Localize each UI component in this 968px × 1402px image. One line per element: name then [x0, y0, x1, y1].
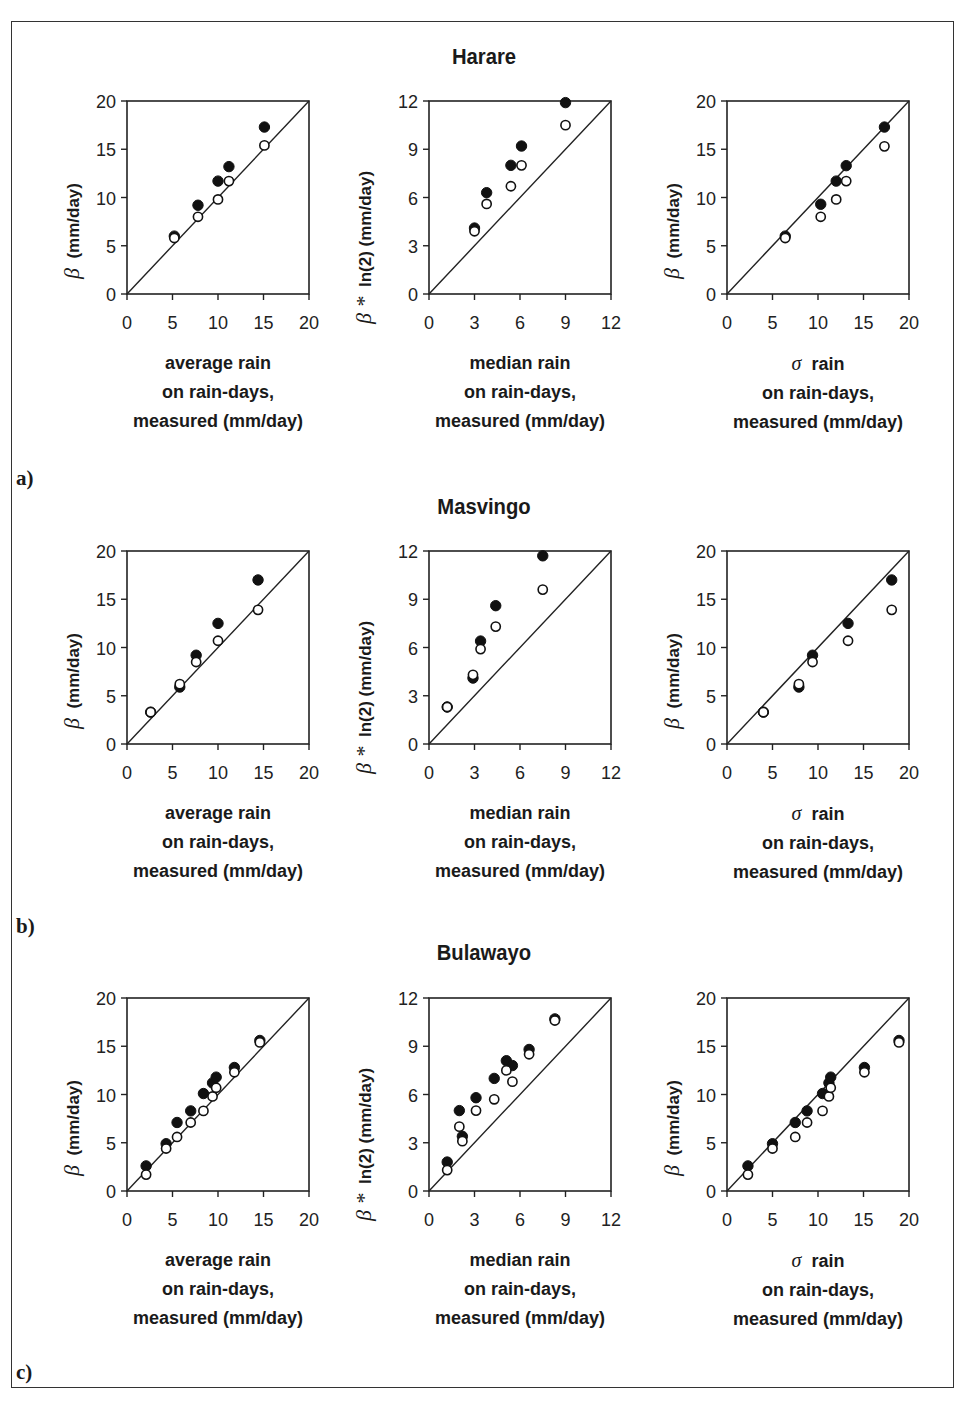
filled-data-point — [454, 1105, 464, 1115]
y-tick-label: 6 — [408, 639, 418, 659]
open-data-point — [224, 176, 233, 185]
open-data-point — [260, 141, 269, 150]
x-tick-label: 0 — [122, 313, 132, 333]
y-tick-label: 0 — [408, 735, 418, 755]
filled-data-point — [186, 1106, 196, 1116]
filled-data-point — [211, 1072, 221, 1082]
x-tick-label: 10 — [208, 313, 228, 333]
site-title-masvingo: Masvingo — [39, 494, 930, 520]
y-tick-label: 3 — [408, 687, 418, 707]
one-to-one-line — [429, 998, 611, 1191]
open-data-point — [561, 121, 570, 130]
x-tick-label: 15 — [853, 1210, 873, 1230]
open-data-point — [193, 212, 202, 221]
y-tick-label: 0 — [706, 285, 716, 305]
y-tick-label: 5 — [706, 687, 716, 707]
filled-data-point — [879, 122, 889, 132]
open-data-point — [743, 1170, 752, 1179]
x-axis-label: median rainon rain-days,measured (mm/day… — [390, 349, 650, 436]
y-tick-label: 0 — [106, 1182, 116, 1202]
x-tick-label: 0 — [722, 313, 732, 333]
open-data-point — [192, 657, 201, 666]
site-title-bulawayo: Bulawayo — [39, 940, 930, 966]
open-data-point — [802, 1118, 811, 1127]
x-tick-label: 0 — [424, 1210, 434, 1230]
open-data-point — [517, 161, 526, 170]
y-tick-label: 10 — [96, 639, 116, 659]
filled-data-point — [213, 176, 223, 186]
x-tick-label: 3 — [469, 1210, 479, 1230]
x-tick-label: 0 — [122, 1210, 132, 1230]
x-tick-label: 15 — [253, 763, 273, 783]
y-tick-label: 20 — [696, 989, 716, 1009]
open-data-point — [162, 1144, 171, 1153]
filled-data-point — [516, 141, 526, 151]
open-data-point — [208, 1092, 217, 1101]
filled-data-point — [253, 575, 263, 585]
filled-data-point — [471, 1093, 481, 1103]
y-axis-label: β (mm/day) — [659, 1080, 685, 1176]
open-data-point — [781, 233, 790, 242]
open-data-point — [843, 636, 852, 645]
x-tick-label: 15 — [853, 313, 873, 333]
y-tick-label: 10 — [96, 1086, 116, 1106]
x-tick-label: 5 — [767, 763, 777, 783]
open-data-point — [476, 645, 485, 654]
x-tick-label: 0 — [424, 313, 434, 333]
scatter-plot-harare-mean: 0510152005101520β (mm/day)average rainon… — [127, 101, 309, 294]
y-tick-label: 15 — [696, 1037, 716, 1057]
x-tick-label: 15 — [853, 763, 873, 783]
x-tick-label: 6 — [515, 763, 525, 783]
open-data-point — [146, 708, 155, 717]
open-data-point — [482, 199, 491, 208]
open-data-point — [490, 1095, 499, 1104]
x-axis-label: σ rainon rain-days,measured (mm/day) — [688, 349, 948, 437]
open-data-point — [172, 1132, 181, 1141]
open-data-point — [768, 1144, 777, 1153]
y-tick-label: 0 — [408, 1182, 418, 1202]
x-tick-label: 5 — [767, 1210, 777, 1230]
open-data-point — [491, 622, 500, 631]
scatter-plot-masvingo-mean: 0510152005101520β (mm/day)average rainon… — [127, 551, 309, 744]
open-data-point — [471, 1106, 480, 1115]
x-tick-label: 9 — [560, 1210, 570, 1230]
open-data-point — [443, 1165, 452, 1174]
x-axis-label: average rainon rain-days,measured (mm/da… — [88, 799, 348, 886]
open-data-point — [894, 1038, 903, 1047]
scatter-plot-bulawayo-sigma: 0510152005101520β (mm/day)σ rainon rain-… — [727, 998, 909, 1191]
y-axis-label: β (mm/day) — [59, 633, 85, 729]
y-axis-label: β (mm/day) — [59, 1080, 85, 1176]
open-data-point — [880, 142, 889, 151]
scatter-plot-bulawayo-mean: 0510152005101520β (mm/day)average rainon… — [127, 998, 309, 1191]
filled-data-point — [193, 200, 203, 210]
y-tick-label: 15 — [696, 590, 716, 610]
y-tick-label: 0 — [706, 1182, 716, 1202]
filled-data-point — [481, 187, 491, 197]
x-tick-label: 3 — [469, 313, 479, 333]
open-data-point — [458, 1137, 467, 1146]
x-tick-label: 5 — [767, 313, 777, 333]
open-data-point — [170, 233, 179, 242]
site-title-harare: Harare — [39, 44, 930, 70]
open-data-point — [470, 227, 479, 236]
x-tick-label: 12 — [601, 313, 621, 333]
y-tick-label: 6 — [408, 1086, 418, 1106]
open-data-point — [502, 1066, 511, 1075]
y-tick-label: 12 — [398, 92, 418, 112]
open-data-point — [443, 702, 452, 711]
open-data-point — [142, 1170, 151, 1179]
panel-label-b: b) — [16, 914, 35, 939]
x-tick-label: 0 — [722, 1210, 732, 1230]
filled-data-point — [841, 160, 851, 170]
open-data-point — [525, 1050, 534, 1059]
one-to-one-line — [429, 101, 611, 294]
y-axis-label: β * ln(2) (mm/day) — [351, 171, 377, 324]
one-to-one-line — [727, 551, 909, 744]
y-tick-label: 12 — [398, 989, 418, 1009]
filled-data-point — [198, 1088, 208, 1098]
x-tick-label: 15 — [253, 1210, 273, 1230]
scatter-plot-harare-sigma: 0510152005101520β (mm/day)σ rainon rain-… — [727, 101, 909, 294]
panel-label-c: c) — [16, 1360, 32, 1385]
one-to-one-line — [127, 998, 309, 1191]
filled-data-point — [172, 1117, 182, 1127]
